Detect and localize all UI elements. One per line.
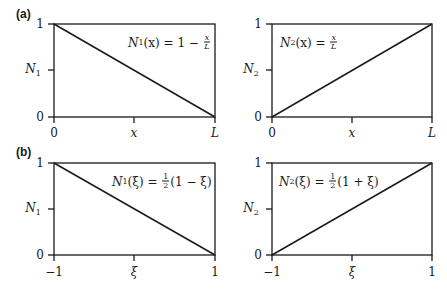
fraction-denominator: 2 [163,182,168,190]
ylabel-n1: N1 [25,201,41,217]
xtick-start: −1 [263,266,281,278]
ytick-0: 0 [254,249,262,261]
panel-label-a: (a) [16,7,31,21]
ytick-1: 1 [36,157,44,169]
xtick-end: L [211,126,219,140]
formula-lhs: N [279,174,290,188]
ylabel-subscript: 2 [254,208,259,217]
figure-graphics [0,0,447,290]
ylabel-n1: N1 [25,62,41,78]
xtick-end: 1 [211,266,219,278]
ylabel-text: N [25,201,36,215]
formula-lhs: N [128,35,139,49]
ylabel-text: N [25,62,36,76]
ylabel-n2: N2 [243,201,259,217]
xlabel-x: x [131,126,138,140]
ytick-0: 0 [36,249,44,261]
formula-arg: (x) = [296,35,330,49]
ytick-1: 1 [254,157,262,169]
xtick-end: L [428,126,436,140]
ytick-0: 0 [254,111,262,123]
ylabel-subscript: 2 [254,69,259,78]
ylabel-text: N [243,201,254,215]
formula-lhs: N [280,35,291,49]
xlabel-xi: ξ [131,265,138,279]
formula-n2-natural: N2(ξ) = 12 (1 + ξ) [279,173,379,190]
formula-fraction: 12 [329,173,336,190]
formula-fraction: 12 [162,173,169,190]
formula-arg: (ξ) = [295,174,329,188]
fraction-denominator: L [331,43,336,51]
formula-n2-physical: N2(x) = xL [280,34,338,51]
xlabel-xi: ξ [349,265,356,279]
xtick-start: −1 [45,266,63,278]
formula-n1-natural: N1(ξ) = 12 (1 − ξ) [112,173,212,190]
formula-n1-physical: N1(x) = 1 − xL [128,34,211,51]
xtick-start: 0 [268,127,276,139]
ylabel-subscript: 1 [36,69,41,78]
formula-tail: (1 − ξ) [170,174,211,188]
formula-lhs: N [112,174,123,188]
xtick-start: 0 [50,127,58,139]
ytick-1: 1 [36,18,44,30]
fraction-denominator: L [204,43,209,51]
xtick-end: 1 [428,266,436,278]
formula-fraction: xL [330,34,337,51]
formula-arg: (x) = 1 − [144,35,203,49]
ytick-0: 0 [36,111,44,123]
formula-arg: (ξ) = [128,174,162,188]
xlabel-x: x [349,126,356,140]
ylabel-subscript: 1 [36,208,41,217]
formula-fraction: xL [204,34,211,51]
ytick-1: 1 [254,18,262,30]
formula-tail: (1 + ξ) [337,174,378,188]
fraction-denominator: 2 [330,182,335,190]
ylabel-n2: N2 [243,62,259,78]
ylabel-text: N [243,62,254,76]
panel-label-b: (b) [16,145,31,159]
